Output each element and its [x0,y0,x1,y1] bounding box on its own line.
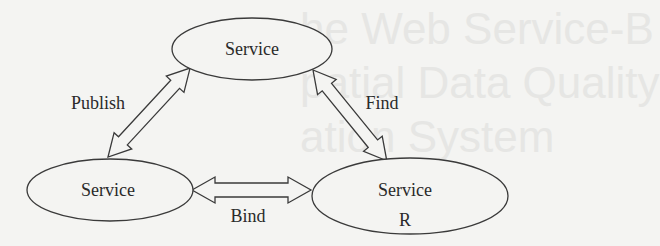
bind-arrow [192,177,311,203]
service-left-label: Service [81,180,135,200]
service-right-label: Service [378,180,432,200]
service-right-sublabel: R [399,210,411,230]
bind-label: Bind [230,206,265,226]
service-top-label: Service [225,39,279,59]
find-label: Find [365,93,398,113]
publish-label: Publish [71,93,125,113]
find-arrow [304,62,396,168]
